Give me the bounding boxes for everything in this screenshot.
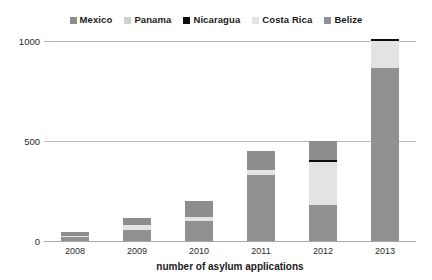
legend-item-belize: Belize bbox=[324, 15, 362, 25]
bar-segment-2011-belize bbox=[247, 175, 275, 241]
bar-segment-2013-costa-rica bbox=[371, 41, 399, 68]
legend-swatch-mexico bbox=[70, 17, 77, 24]
bar-segment-2010-belize bbox=[185, 221, 213, 241]
x-tick-2011: 2011 bbox=[237, 247, 285, 256]
bar-group-2008 bbox=[61, 232, 89, 241]
bar-segment-2008-belize bbox=[61, 237, 89, 241]
legend-item-mexico: Mexico bbox=[70, 15, 113, 25]
y-axis-labels: 1000 500 0 bbox=[0, 41, 40, 242]
y-tick-1000: 1000 bbox=[2, 37, 40, 47]
x-tick-2010: 2010 bbox=[175, 247, 223, 256]
x-tick-2012: 2012 bbox=[299, 247, 347, 256]
asylum-applications-chart: Mexico Panama Nicaragua Costa Rica Beliz… bbox=[0, 0, 432, 280]
x-tick-2013: 2013 bbox=[361, 247, 409, 256]
legend-label-panama: Panama bbox=[134, 15, 171, 25]
legend-swatch-nicaragua bbox=[183, 17, 190, 24]
x-tick-2009: 2009 bbox=[113, 247, 161, 256]
bar-segment-2009-mexico bbox=[123, 218, 151, 225]
bar-segment-2012-costa-rica bbox=[309, 162, 337, 205]
bar-segment-2010-mexico bbox=[185, 201, 213, 217]
legend-item-nicaragua: Nicaragua bbox=[183, 15, 240, 25]
bar-group-2009 bbox=[123, 218, 151, 241]
legend-label-mexico: Mexico bbox=[80, 15, 113, 25]
bar-group-2013 bbox=[371, 39, 399, 241]
bar-group-2012 bbox=[309, 141, 337, 241]
bar-segment-2009-belize bbox=[123, 230, 151, 241]
chart-legend: Mexico Panama Nicaragua Costa Rica Beliz… bbox=[0, 13, 432, 27]
bar-group-2010 bbox=[185, 201, 213, 241]
bar-segment-2013-belize bbox=[371, 68, 399, 241]
legend-swatch-costa-rica bbox=[252, 17, 259, 24]
plot-area bbox=[44, 41, 416, 242]
x-axis-title: number of asylum applications bbox=[44, 262, 416, 272]
legend-label-nicaragua: Nicaragua bbox=[193, 15, 240, 25]
legend-label-belize: Belize bbox=[334, 15, 362, 25]
bar-segment-2012-belize bbox=[309, 205, 337, 241]
legend-swatch-panama bbox=[124, 17, 131, 24]
x-tick-2008: 2008 bbox=[51, 247, 99, 256]
x-axis-labels: 2008 2009 2010 2011 2012 2013 bbox=[44, 247, 416, 261]
legend-item-panama: Panama bbox=[124, 15, 171, 25]
legend-item-costa-rica: Costa Rica bbox=[252, 15, 312, 25]
legend-swatch-belize bbox=[324, 17, 331, 24]
bar-series-container bbox=[44, 41, 416, 242]
legend-label-costa-rica: Costa Rica bbox=[262, 15, 312, 25]
bar-segment-2012-mexico bbox=[309, 141, 337, 160]
y-tick-500: 500 bbox=[2, 137, 40, 147]
y-tick-0: 0 bbox=[2, 237, 40, 247]
bar-group-2011 bbox=[247, 151, 275, 241]
bar-segment-2011-mexico bbox=[247, 151, 275, 170]
